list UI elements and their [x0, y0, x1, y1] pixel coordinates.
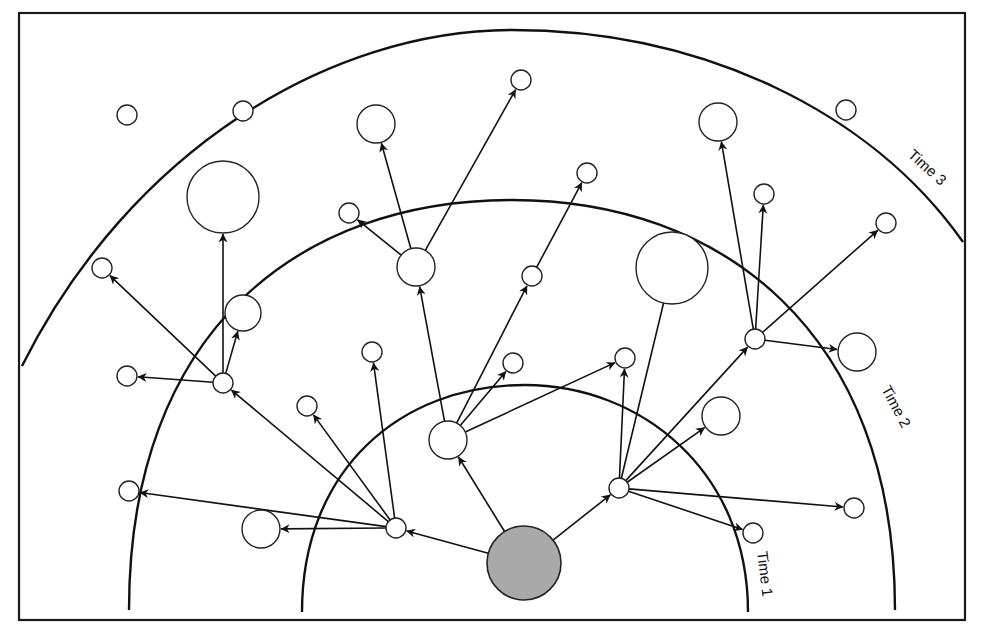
leaf-node — [225, 295, 261, 331]
leaf-node — [743, 523, 763, 543]
diffusion-diagram: Time 1 Time 2 Time 3 — [0, 0, 982, 634]
spread-arrow — [373, 363, 394, 518]
horizon-label-time-2: Time 2 — [878, 382, 914, 430]
leaf-node — [187, 161, 259, 233]
spread-arrow — [619, 369, 624, 478]
spread-arrow — [381, 143, 410, 248]
hub-node — [745, 329, 765, 349]
leaf-node — [242, 510, 280, 548]
spread-arrow — [407, 531, 489, 553]
spread-arrow — [425, 90, 515, 251]
leaf-node — [503, 353, 523, 373]
isolated-node — [233, 101, 253, 121]
leaf-node — [754, 184, 774, 204]
leaf-node — [876, 213, 896, 233]
horizon-arc-time-3 — [22, 30, 963, 366]
spread-arrow — [465, 363, 615, 432]
hub-node — [429, 421, 467, 459]
hub-node — [213, 373, 233, 393]
leaf-node — [615, 348, 635, 368]
spread-arrow — [762, 230, 877, 332]
hub-node — [386, 518, 406, 538]
isolated-node — [836, 100, 856, 120]
leaf-node — [339, 203, 359, 223]
leaf-node — [699, 103, 737, 141]
leaf-node — [844, 498, 864, 518]
spread-arrow — [281, 528, 386, 529]
nodes-layer — [92, 70, 896, 600]
origin-node — [487, 526, 561, 600]
leaf-node — [119, 481, 139, 501]
spread-arrow — [765, 340, 837, 349]
figure-frame — [19, 13, 965, 620]
spread-arrow — [756, 205, 764, 329]
hub-node — [397, 248, 435, 286]
spread-arrow — [553, 495, 610, 540]
edges-layer — [110, 90, 878, 554]
leaf-node — [511, 70, 531, 90]
leaf-node — [636, 232, 708, 304]
leaf-node — [297, 396, 317, 416]
spread-arrow — [459, 457, 505, 532]
leaf-node — [117, 366, 137, 386]
leaf-node — [92, 258, 112, 278]
leaf-node — [577, 163, 597, 183]
spread-arrow — [721, 142, 753, 329]
isolated-node — [117, 105, 137, 125]
leaf-node — [702, 397, 740, 435]
leaf-node — [357, 105, 395, 143]
spread-arrow — [460, 371, 506, 425]
hub-node — [522, 266, 542, 286]
spread-arrow — [358, 220, 402, 255]
spread-arrow — [110, 276, 216, 377]
spread-arrow — [226, 331, 238, 373]
spread-arrow — [621, 279, 669, 479]
spread-arrow — [629, 489, 843, 507]
spread-arrow — [138, 377, 213, 382]
hub-node — [609, 478, 629, 498]
spread-arrow — [420, 287, 445, 422]
horizon-label-time-1: Time 1 — [754, 550, 776, 597]
leaf-node — [362, 342, 382, 362]
spread-arrow — [537, 183, 582, 267]
leaf-node — [838, 333, 876, 371]
